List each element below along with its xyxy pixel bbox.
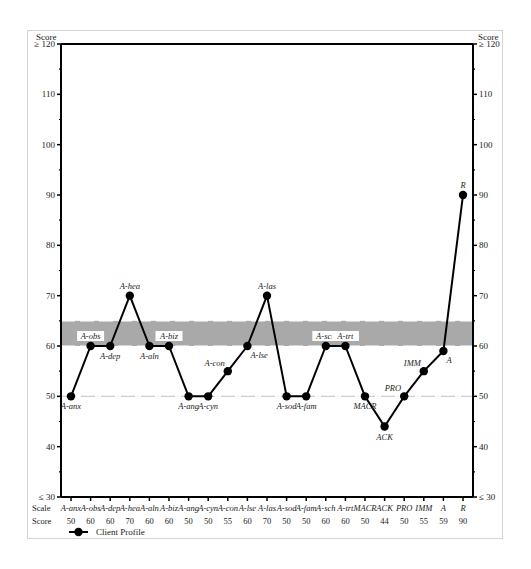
- point-label-a-biz: A-biz: [159, 331, 179, 341]
- data-point-macr: [361, 392, 369, 400]
- point-label-a-sod: A-sod: [276, 401, 298, 411]
- left-tick-label: 40: [46, 442, 56, 452]
- left-tick-label: 70: [46, 291, 56, 301]
- point-label-a-obs: A-obs: [80, 331, 102, 341]
- right-tick-label: ≥ 120: [479, 39, 500, 49]
- chart-axes: ScoreScore≥ 120≥ 12011011010010090908080…: [34, 32, 500, 502]
- point-label-a-anx: A-anx: [60, 401, 82, 411]
- point-label-a-trt: A-trt: [336, 331, 354, 341]
- x-category-label: MACR: [352, 503, 377, 513]
- x-score-value: 90: [459, 516, 468, 526]
- x-category-label: A-sch: [315, 503, 335, 513]
- row-label-scale: Scale: [32, 503, 51, 513]
- right-tick-label: ≤ 30: [479, 492, 496, 502]
- x-score-value: 55: [224, 516, 233, 526]
- left-tick-label: 90: [46, 190, 56, 200]
- data-point-a-dep: [106, 342, 114, 350]
- x-category-label: A-hea: [119, 503, 140, 513]
- x-score-value: 60: [341, 516, 350, 526]
- x-score-value: 70: [126, 516, 135, 526]
- x-category-label: A-anx: [60, 503, 82, 513]
- x-category-label: A-cyn: [197, 503, 218, 513]
- right-tick-label: 50: [479, 391, 489, 401]
- right-tick-label: 70: [479, 291, 489, 301]
- series-line: [71, 195, 463, 427]
- data-point-r: [459, 191, 467, 199]
- x-score-value: 50: [361, 516, 370, 526]
- data-point-a-cyn: [204, 392, 212, 400]
- x-score-value: 55: [420, 516, 429, 526]
- point-label-a-cyn: A-cyn: [197, 401, 218, 411]
- left-tick-label: 110: [42, 89, 56, 99]
- point-label-pro: PRO: [384, 383, 402, 393]
- point-label-a-lse: A-lse: [249, 350, 268, 360]
- x-category-label: A-con: [217, 503, 238, 513]
- x-category-label: A-dep: [99, 503, 120, 513]
- left-tick-label: 50: [46, 391, 56, 401]
- x-score-value: 50: [204, 516, 213, 526]
- x-score-value: 59: [439, 516, 448, 526]
- right-tick-label: 80: [479, 240, 489, 250]
- x-score-value: 50: [400, 516, 409, 526]
- x-category-label: R: [459, 503, 466, 513]
- x-category-label: IMM: [414, 503, 433, 513]
- data-point-a-las: [263, 291, 271, 299]
- point-label-a: A: [445, 355, 452, 365]
- data-point-a-ang: [184, 392, 192, 400]
- x-category-label: A-biz: [159, 503, 179, 513]
- left-tick-label: 100: [42, 140, 56, 150]
- data-point-a-fam: [302, 392, 310, 400]
- left-tick-label: ≥ 120: [34, 39, 55, 49]
- x-score-value: 50: [302, 516, 311, 526]
- data-point-a-sod: [282, 392, 290, 400]
- data-point-ack: [380, 422, 388, 430]
- row-label-score: Score: [32, 516, 52, 526]
- data-point-a-sch: [322, 342, 330, 350]
- data-point-a-anx: [67, 392, 75, 400]
- point-label-a-las: A-las: [257, 281, 277, 291]
- point-label-ack: ACK: [375, 432, 394, 442]
- right-tick-label: 40: [479, 442, 489, 452]
- legend: Client Profile: [69, 527, 145, 537]
- data-point-a-con: [224, 367, 232, 375]
- left-tick-label: 80: [46, 240, 56, 250]
- x-category-label: A-aln: [139, 503, 159, 513]
- series-client-profile: [67, 191, 467, 431]
- data-point-a-biz: [165, 342, 173, 350]
- data-point-a-aln: [145, 342, 153, 350]
- x-category-label: A: [440, 503, 447, 513]
- x-category-label: PRO: [395, 503, 413, 513]
- data-point-a-trt: [341, 342, 349, 350]
- x-score-value: 60: [322, 516, 331, 526]
- point-label-a-dep: A-dep: [99, 351, 120, 361]
- point-label-a-fam: A-fam: [295, 401, 317, 411]
- data-point-a: [439, 347, 447, 355]
- right-tick-label: 110: [479, 89, 493, 99]
- point-label-a-ang: A-ang: [177, 401, 199, 411]
- x-score-value: 60: [106, 516, 115, 526]
- x-category-label: A-sod: [276, 503, 298, 513]
- point-label-macr: MACR: [352, 401, 377, 411]
- x-category-label: A-trt: [336, 503, 354, 513]
- x-category-label: A-ang: [177, 503, 199, 513]
- right-tick-label: 90: [479, 190, 489, 200]
- left-tick-label: 60: [46, 341, 56, 351]
- line-chart: ScoreScore≥ 120≥ 12011011010010090908080…: [0, 0, 531, 569]
- x-score-value: 70: [263, 516, 272, 526]
- x-score-value: 50: [67, 516, 76, 526]
- legend-marker-icon: [74, 528, 82, 536]
- data-point-pro: [400, 392, 408, 400]
- x-category-label: ACK: [375, 503, 394, 513]
- data-point-a-obs: [86, 342, 94, 350]
- x-category-table: ScaleScoreA-anx50A-obs60A-dep60A-hea70A-…: [32, 503, 467, 526]
- band-fill: [61, 321, 473, 346]
- x-category-label: A-fam: [295, 503, 317, 513]
- x-score-value: 44: [380, 516, 389, 526]
- data-point-a-hea: [126, 291, 134, 299]
- point-labels: A-anxA-obsA-depA-heaA-alnA-bizA-angA-cyn…: [60, 180, 467, 442]
- point-label-a-hea: A-hea: [119, 281, 140, 291]
- x-score-value: 60: [165, 516, 174, 526]
- x-score-value: 60: [243, 516, 252, 526]
- reference-band-60-65: [61, 321, 473, 346]
- data-point-a-lse: [243, 342, 251, 350]
